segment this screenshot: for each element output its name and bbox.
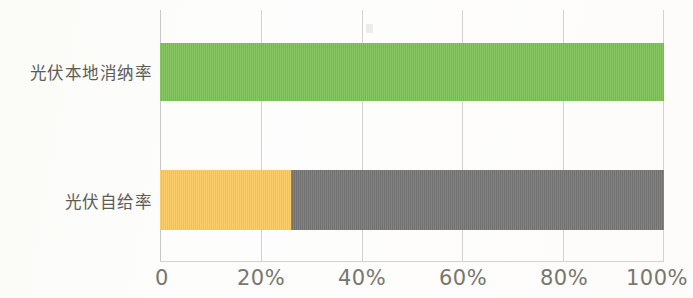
bar-pv-self-sufficiency[interactable] bbox=[160, 170, 664, 230]
x-tick-label-80: 80% bbox=[540, 266, 588, 290]
x-tick-label-0: 0 bbox=[155, 266, 169, 290]
bar-segment-pv-self-sufficiency[interactable] bbox=[160, 170, 291, 230]
scan-artifact-speck bbox=[366, 24, 373, 33]
bar-segment-pv-local-consumption[interactable] bbox=[160, 43, 664, 101]
plot-area bbox=[160, 10, 664, 262]
x-tick-label-20: 20% bbox=[237, 266, 285, 290]
x-tick-label-40: 40% bbox=[338, 266, 386, 290]
x-axis-tick-labels: 0 20% 40% 60% 80% 100% bbox=[0, 266, 693, 298]
x-tick-label-60: 60% bbox=[439, 266, 487, 290]
bar-chart-figure: 光伏本地消纳率 光伏自给率 0 20% 40% 60% 80% 100% bbox=[0, 0, 693, 298]
x-axis-line bbox=[160, 261, 664, 262]
category-label-pv-local-consumption: 光伏本地消纳率 bbox=[8, 60, 152, 84]
bar-segment-remainder[interactable] bbox=[291, 170, 664, 230]
x-tick-label-100: 100% bbox=[626, 266, 688, 290]
category-label-pv-self-sufficiency: 光伏自给率 bbox=[8, 189, 152, 213]
bar-pv-local-consumption[interactable] bbox=[160, 43, 664, 101]
